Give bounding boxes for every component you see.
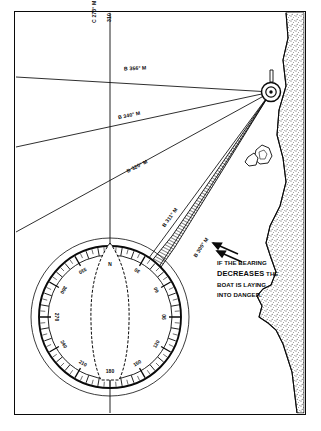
rose-label-300: 300 [59,285,68,295]
rose-label-180: 180 [106,368,114,374]
rose-label-330: 330 [78,266,88,275]
rose-label-90: 90 [161,314,167,320]
compass-rose-labels: 270300330N306090120150180210240 [0,0,321,431]
rose-label-120: 120 [152,339,161,349]
rose-label-240: 240 [59,339,68,349]
rose-label-210: 210 [78,359,88,368]
rose-label-150: 150 [132,359,142,368]
rose-label-270: 270 [54,313,60,321]
diagram-canvas: C 273° M 310 B 356° M B 340° M B 320° M … [0,0,321,431]
rose-label-n: N [108,261,112,267]
rose-label-30: 30 [133,267,141,275]
rose-label-60: 60 [152,286,160,294]
